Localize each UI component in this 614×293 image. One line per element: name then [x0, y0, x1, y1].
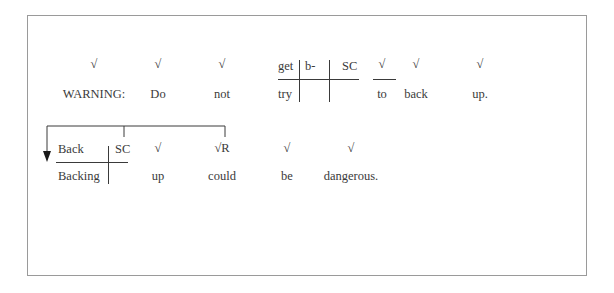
word: could	[208, 169, 236, 183]
marker: √	[155, 141, 162, 155]
compound-bottom-left: Backing	[58, 169, 100, 183]
compound-separator	[108, 146, 109, 184]
marker: √	[348, 141, 355, 155]
tree-connector	[0, 0, 614, 293]
marker: √	[284, 141, 291, 155]
word: up	[152, 169, 165, 183]
compound-top-left: Back	[58, 142, 84, 156]
word: be	[281, 169, 293, 183]
compound-top-right: SC	[115, 142, 130, 156]
arrow-down-icon	[43, 151, 51, 162]
word: dangerous.	[324, 169, 379, 183]
marker: √R	[214, 141, 229, 155]
compound-divider	[56, 162, 128, 163]
